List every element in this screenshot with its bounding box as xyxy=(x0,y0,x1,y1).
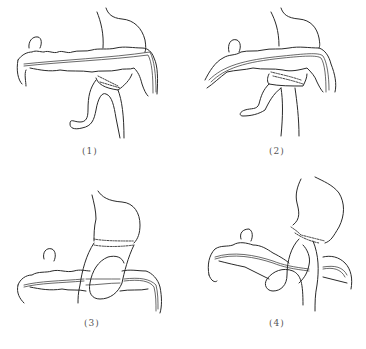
panel-3: (3) xyxy=(0,175,183,349)
panel-caption: (4) xyxy=(269,318,285,328)
panel-2: (2) xyxy=(183,0,366,174)
panel-4: (4) xyxy=(183,175,366,349)
panel-1: (1) xyxy=(0,0,183,174)
panel-caption: (3) xyxy=(84,318,100,328)
panel-caption: (1) xyxy=(82,146,98,156)
panel-caption: (2) xyxy=(269,146,285,156)
